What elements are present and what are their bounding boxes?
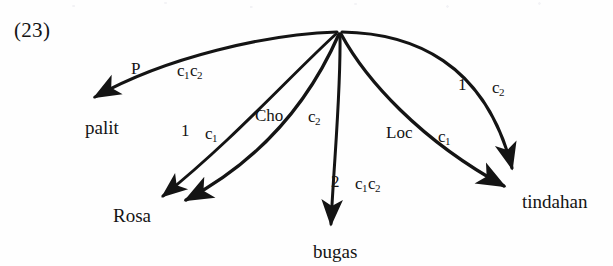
edge-label-index-palit: c1c2	[177, 62, 203, 79]
edge-label-role-Loc: Loc	[386, 124, 412, 141]
node-label-rosa: Rosa	[113, 206, 151, 225]
edge-label-role-bugas: 2	[331, 173, 340, 190]
edge-label-index-tindahan-loc: c1	[438, 128, 451, 145]
diagram-page: (23) palit Rosa bugas tindahan P c1c2 1 …	[0, 0, 613, 266]
edge-bugas	[331, 34, 340, 224]
node-label-palit: palit	[85, 118, 119, 137]
edge-label-index-rosa-cho: c2	[308, 108, 321, 125]
edge-label-role-tindahan-1: 1	[458, 76, 467, 93]
edge-tindahan-loc	[341, 34, 504, 186]
edge-label-role-rosa-1: 1	[181, 122, 190, 139]
edge-label-index-tindahan-1: c2	[492, 79, 505, 96]
node-label-tindahan: tindahan	[522, 192, 587, 211]
edge-label-index-bugas: c1c2	[355, 175, 381, 192]
edge-label-role-P: P	[131, 60, 140, 77]
edge-label-role-Cho: Cho	[255, 107, 283, 124]
edge-label-index-rosa-1: c1	[205, 125, 218, 142]
node-label-bugas: bugas	[313, 242, 357, 261]
edge-tindahan-1	[342, 32, 512, 168]
